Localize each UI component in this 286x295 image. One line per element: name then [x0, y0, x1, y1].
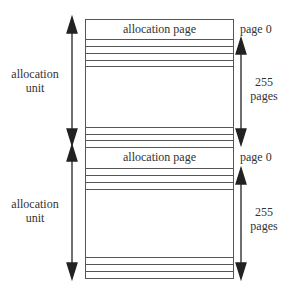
allocation-page-label: allocation page	[85, 150, 234, 164]
arrow-up-icon	[67, 17, 77, 33]
pages-count-label: 255 pages	[244, 205, 284, 233]
arrow-up-icon	[236, 38, 246, 54]
arrow-up-icon	[236, 168, 246, 184]
arrow-up-icon	[67, 145, 77, 161]
arrow-down-icon	[67, 263, 77, 279]
page0-label: page 0	[240, 150, 280, 164]
pages-word: pages	[244, 89, 284, 103]
arrow-down-icon	[67, 129, 77, 145]
page0-label: page 0	[240, 22, 280, 36]
unit-label-line2: unit	[5, 211, 65, 225]
unit-label-line2: unit	[5, 81, 65, 95]
arrow-down-icon	[236, 129, 246, 145]
allocation-unit-label: allocation unit	[5, 197, 65, 225]
pages-word: pages	[244, 219, 284, 233]
unit-label-line1: allocation	[5, 197, 65, 211]
allocation-unit-label: allocation unit	[5, 67, 65, 95]
pages-count: 255	[244, 205, 284, 219]
pages-count: 255	[244, 75, 284, 89]
allocation-page-label: allocation page	[85, 22, 234, 36]
arrows	[0, 0, 286, 295]
pages-count-label: 255 pages	[244, 75, 284, 103]
unit-label-line1: allocation	[5, 67, 65, 81]
arrow-down-icon	[236, 263, 246, 279]
